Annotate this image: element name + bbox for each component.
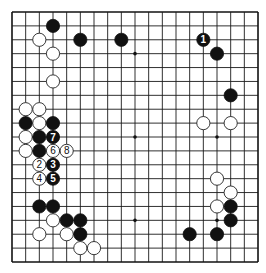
black-stone <box>33 200 46 213</box>
white-stone <box>19 130 32 143</box>
black-stone <box>46 117 59 130</box>
move-number-label: 3 <box>50 159 56 170</box>
white-stone <box>46 47 59 60</box>
white-stone <box>60 228 73 241</box>
black-stone <box>33 144 46 157</box>
black-stone: 5 <box>46 172 59 185</box>
star-point <box>215 135 219 139</box>
white-stone <box>197 117 210 130</box>
black-stone <box>210 47 223 60</box>
white-stone <box>19 103 32 116</box>
white-stone <box>33 33 46 46</box>
black-stone <box>74 228 87 241</box>
white-stone <box>224 186 237 199</box>
black-stone <box>46 19 59 32</box>
move-number-label: 7 <box>50 132 56 143</box>
white-stone <box>33 103 46 116</box>
white-stone <box>224 117 237 130</box>
black-stone <box>210 228 223 241</box>
white-stone: 8 <box>60 144 73 157</box>
black-stone <box>46 200 59 213</box>
move-number-label: 1 <box>201 34 207 45</box>
black-stone: 1 <box>197 33 210 46</box>
go-board: 76823451 <box>0 0 266 273</box>
move-number-label: 4 <box>37 173 43 184</box>
star-point <box>215 219 219 223</box>
white-stone <box>74 242 87 255</box>
star-point <box>133 135 137 139</box>
black-stone <box>224 89 237 102</box>
black-stone <box>74 214 87 227</box>
move-number-label: 6 <box>50 145 56 156</box>
white-stone <box>87 242 100 255</box>
white-stone <box>210 200 223 213</box>
black-stone <box>60 214 73 227</box>
white-stone <box>33 117 46 130</box>
white-stone: 2 <box>33 158 46 171</box>
white-stone <box>210 172 223 185</box>
black-stone: 3 <box>46 158 59 171</box>
white-stone <box>33 228 46 241</box>
black-stone <box>33 130 46 143</box>
white-stone: 4 <box>33 172 46 185</box>
black-stone <box>183 228 196 241</box>
star-point <box>133 219 137 223</box>
go-board-diagram: 76823451 <box>0 0 266 273</box>
star-point <box>133 52 137 56</box>
black-stone <box>115 33 128 46</box>
white-stone <box>46 75 59 88</box>
move-number-label: 2 <box>37 159 43 170</box>
black-stone <box>224 200 237 213</box>
white-stone: 6 <box>46 144 59 157</box>
move-number-label: 8 <box>64 145 70 156</box>
black-stone <box>74 33 87 46</box>
black-stone: 7 <box>46 130 59 143</box>
black-stone <box>19 117 32 130</box>
white-stone <box>19 144 32 157</box>
move-number-label: 5 <box>50 173 56 184</box>
black-stone <box>224 214 237 227</box>
white-stone <box>46 214 59 227</box>
